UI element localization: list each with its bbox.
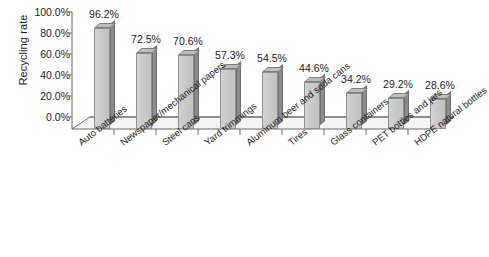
y-axis-tick-label: 100.0% xyxy=(12,7,70,17)
y-axis-tick-label: 20.0% xyxy=(12,91,70,101)
bar-value-label: 70.6% xyxy=(158,36,218,47)
y-axis-tick-labels: 100.0%80.0%60.0%40.0%20.0%0.0% xyxy=(12,0,70,135)
bar-value-label: 54.5% xyxy=(242,53,302,64)
bars-container: 96.2%72.5%70.6%57.3%54.5%44.6%34.2%29.2%… xyxy=(72,12,454,129)
x-axis-category-labels: Auto batteriesNewspaper/mechanical paper… xyxy=(72,133,467,257)
y-axis-tick-label: 0.0% xyxy=(12,112,70,122)
y-axis-tick-label: 60.0% xyxy=(12,49,70,59)
bar-value-label: 96.2% xyxy=(74,9,134,20)
y-axis-tick-label: 40.0% xyxy=(12,70,70,80)
bar-group: 70.6% xyxy=(170,12,208,129)
bar-group: 44.6% xyxy=(296,12,334,129)
y-axis-tick-label: 80.0% xyxy=(12,28,70,38)
